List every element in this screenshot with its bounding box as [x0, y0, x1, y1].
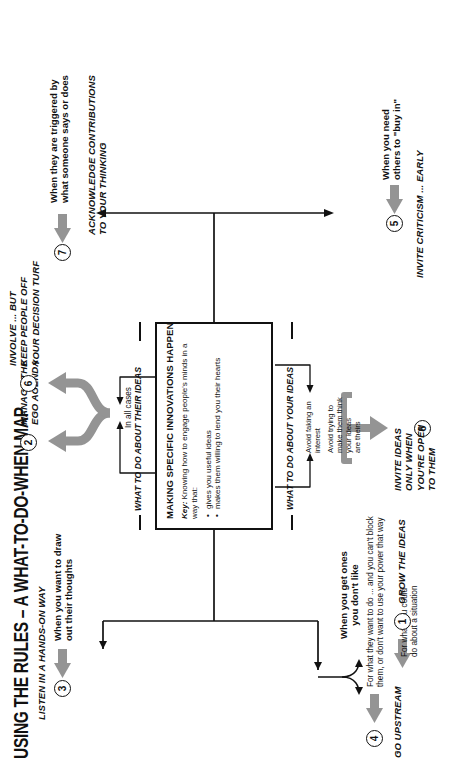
rule-label-7-line: TO YOUR THINKING — [97, 75, 108, 235]
rule-label-6-line: YOUR DECISION TURF — [30, 261, 41, 366]
branch-note-for-what-they-want: For what they want to do ... and you can… — [366, 516, 385, 687]
gray-arrow-rule3 — [54, 649, 71, 678]
branch-note-line: For what they want to do ... and you can… — [366, 516, 376, 687]
branch-note-line: them, or don't want to use your power th… — [376, 516, 386, 687]
rule-label-7: ACKNOWLEDGE CONTRIBUTIONS TO YOUR THINKI… — [86, 75, 109, 235]
branch-note-line: do about a situation — [410, 586, 420, 657]
condition-get-ones-dont-like: When you get ones you don't like — [338, 551, 361, 639]
rule-label-6-line: INVOLVE ... BUT — [7, 261, 18, 366]
condition-line: others to "buy in" — [391, 99, 402, 180]
loop-left-to-inallcases — [120, 425, 155, 473]
rule-number-7: 7 — [54, 244, 71, 261]
gray-arrow-rule7 — [54, 214, 71, 243]
note-line: Avoid trying to — [326, 397, 335, 453]
condition-line: out their thoughts — [63, 534, 74, 641]
rule-label-7-line: ACKNOWLEDGE CONTRIBUTIONS — [86, 75, 97, 235]
condition-triggered: When they are triggered by what someone … — [48, 75, 71, 203]
gray-arrow-head-rule6 — [48, 372, 66, 394]
note-line: interest — [313, 401, 322, 453]
gray-arrow-rule4 — [366, 694, 383, 723]
rule-number-6: 6 — [20, 375, 37, 392]
rule-label-2: MANAGE THE EGO AGENDA — [18, 360, 41, 425]
rule-number-3: 3 — [54, 680, 71, 697]
note-line: make them think — [335, 397, 344, 453]
arrow-head-left-branch — [314, 662, 322, 670]
loop-to-avoid-faking — [275, 457, 310, 487]
fork-lower — [342, 661, 359, 677]
condition-line: When you want to draw — [52, 534, 63, 641]
arrow-head-rule3 — [99, 641, 107, 649]
note-line: Avoid faking an — [304, 401, 313, 453]
fork-upper — [342, 677, 359, 693]
rule-number-5: 5 — [386, 215, 403, 232]
gray-arrow-rule5 — [386, 185, 403, 214]
condition-line: what someone says or does — [59, 75, 70, 203]
rule-number-1: 1 — [394, 613, 411, 630]
condition-line: When you need — [380, 99, 391, 180]
note-avoid-trying: Avoid trying to make them think your ide… — [326, 397, 362, 453]
rule-label-6-line: KEEP PEOPLE OFF — [18, 261, 29, 366]
rule-label-3: LISTEN IN A HANDS-ON WAY — [36, 587, 47, 720]
note-avoid-faking: Avoid faking an interest — [304, 401, 322, 453]
arrow-head-rule5 — [324, 209, 334, 217]
rule-label-1: GROW THE IDEAS — [396, 519, 407, 604]
note-line: your ideas — [344, 397, 353, 453]
gray-arrow-head-rule8 — [370, 416, 388, 440]
gray-arrow-head-rule2 — [48, 430, 66, 452]
diagram-canvas: USING THE RULES – A WHAT-TO-DO-WHEN MAP … — [0, 0, 453, 773]
note-line: are theirs — [353, 397, 362, 453]
rule-label-6: INVOLVE ... BUT KEEP PEOPLE OFF YOUR DEC… — [7, 261, 41, 366]
rule-label-5: INVITE CRITICISM ... EARLY — [414, 150, 425, 278]
rule-label-2-line: MANAGE THE — [18, 360, 29, 425]
rule-label-2-line: EGO AGENDA — [29, 360, 40, 425]
condition-need-buy-in: When you need others to "buy in" — [380, 99, 403, 180]
diagram-frame: USING THE RULES – A WHAT-TO-DO-WHEN MAP … — [0, 0, 453, 773]
rule-label-4: GO UPSTREAM — [392, 687, 403, 758]
gray-fork-left — [62, 413, 110, 441]
rule-number-4: 4 — [366, 730, 383, 747]
condition-draw-out-thoughts: When you want to draw out their thoughts — [52, 534, 75, 641]
condition-line: When you get ones — [338, 551, 349, 639]
condition-line: you don't like — [349, 551, 360, 639]
loop-to-avoid-trying — [275, 365, 310, 389]
gray-fork-right — [62, 383, 110, 413]
rule-number-2: 2 — [20, 434, 37, 451]
condition-line: When they are triggered by — [48, 75, 59, 203]
in-all-cases-label: In all cases — [124, 387, 133, 428]
